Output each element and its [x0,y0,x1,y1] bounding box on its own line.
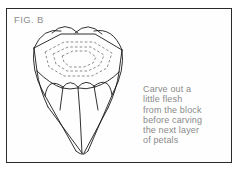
body-edge-left [43,92,76,151]
caption-line-2: little flesh [143,94,229,104]
petal-divider-left [60,87,63,110]
inner-scallop-mid-left [62,88,78,89]
front-petal-arc-3 [78,82,94,87]
carving-illustration-svg [12,14,152,162]
figure-page: FIG. B [0,0,239,173]
inner-scallop-left [37,71,62,88]
caption-line-6: of petals [143,135,229,145]
caption-line-5: the next layer [143,125,229,135]
carving-illustration [12,14,152,162]
front-petal-arc-2 [63,83,78,88]
instruction-caption: Carve out a little flesh from the block … [143,84,229,146]
inner-scallop-mid-right [78,87,95,89]
caption-line-1: Carve out a [143,84,229,94]
caption-line-4: before carving [143,115,229,125]
dashed-contour-ring-1 [45,42,112,76]
dashed-contour-ring-3 [62,51,96,67]
top-petal-arc-1 [34,30,61,48]
body-fold-right [84,108,108,153]
dashed-contour-group [45,42,112,76]
dashed-contour-ring-2 [53,47,104,71]
body-fold-left [48,107,82,153]
center-divider-line [78,88,82,153]
petal-divider-right [94,86,98,110]
inner-scallop-right [95,72,119,87]
front-petal-arc-1 [45,83,63,96]
top-petal-arc-2 [52,27,78,34]
caption-line-3: from the block [143,105,229,115]
block-outline-group [33,27,122,155]
